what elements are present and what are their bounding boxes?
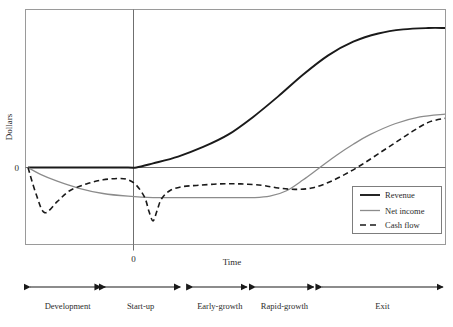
x-axis-title: Time bbox=[223, 257, 242, 267]
stage-label-early-growth: Early-growth bbox=[197, 301, 243, 311]
business-lifecycle-chart: 0 0 Dollars Time RevenueNet incomeCash f… bbox=[0, 0, 453, 327]
legend-label-revenue: Revenue bbox=[385, 190, 415, 200]
stage-label-development: Development bbox=[45, 301, 91, 311]
stage-label-rapid-growth: Rapid-growth bbox=[261, 301, 309, 311]
stage-label-start-up: Start-up bbox=[127, 301, 154, 311]
y-axis-zero-label: 0 bbox=[15, 163, 20, 173]
chart-background bbox=[0, 0, 453, 327]
y-axis-title: Dollars bbox=[4, 113, 14, 140]
chart-legend: RevenueNet incomeCash flow bbox=[353, 187, 442, 234]
legend-label-cash-flow: Cash flow bbox=[385, 220, 421, 230]
legend-label-net-income: Net income bbox=[385, 206, 425, 216]
chart-figure: 0 0 Dollars Time RevenueNet incomeCash f… bbox=[0, 0, 453, 327]
x-axis-zero-label: 0 bbox=[131, 254, 136, 264]
stage-label-exit: Exit bbox=[375, 301, 390, 311]
